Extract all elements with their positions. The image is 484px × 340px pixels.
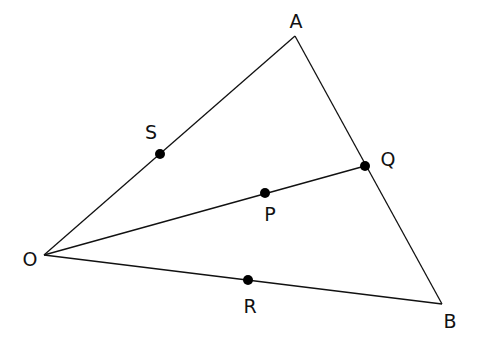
label-R: R — [243, 295, 256, 317]
label-P: P — [264, 203, 275, 225]
label-B: B — [443, 310, 456, 332]
segment-AB — [295, 36, 442, 304]
point-R — [243, 275, 253, 285]
label-O: O — [23, 248, 38, 270]
point-P — [260, 188, 270, 198]
label-A: A — [290, 10, 303, 32]
label-Q: Q — [381, 148, 396, 170]
point-Q — [360, 161, 370, 171]
point-S — [155, 149, 165, 159]
triangle-diagram: A O B S Q P R — [0, 0, 484, 340]
segment-OA — [44, 36, 295, 255]
label-S: S — [145, 121, 157, 143]
segment-OQ — [44, 166, 365, 255]
